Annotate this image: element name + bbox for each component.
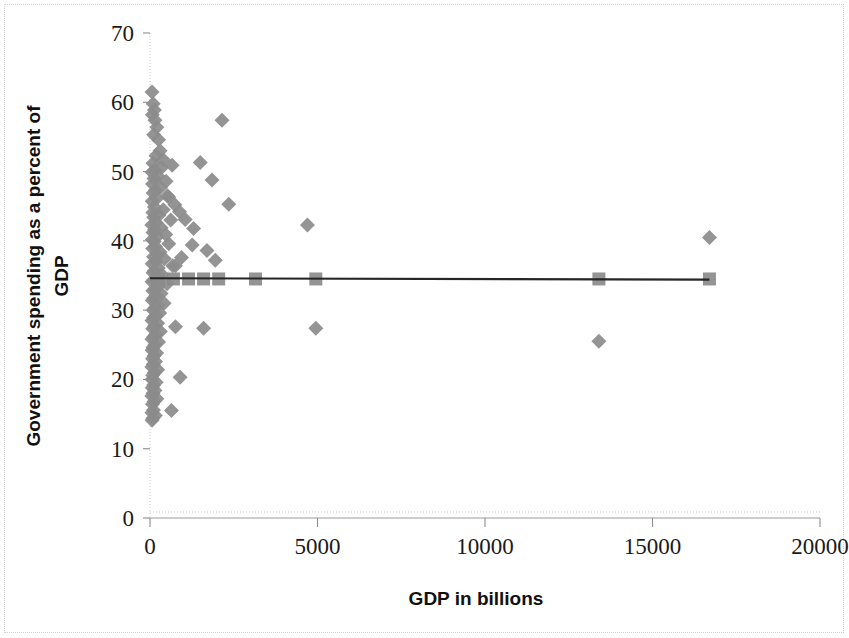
data-point-diamond <box>308 321 323 336</box>
y-axis-title-line-1: Government spending as a percent of <box>23 105 44 447</box>
data-point-diamond <box>185 238 200 253</box>
y-tick-label: 40 <box>111 229 134 254</box>
x-tick-label: 10000 <box>456 534 514 559</box>
y-tick-label: 30 <box>111 298 134 323</box>
y-axis-title-line-2: GDP <box>51 255 72 297</box>
y-tick-label: 60 <box>111 90 134 115</box>
y-tick-label: 0 <box>123 506 135 531</box>
data-point-diamond <box>173 370 188 385</box>
y-tick-label: 10 <box>111 437 134 462</box>
x-axis-title: GDP in billions <box>409 588 544 609</box>
x-tick-label: 15000 <box>624 534 682 559</box>
data-point-diamond <box>204 172 219 187</box>
data-point-diamond <box>145 84 160 99</box>
data-point-diamond <box>591 334 606 349</box>
series-diamond <box>144 84 717 427</box>
x-tick-label: 20000 <box>791 534 849 559</box>
data-point-diamond <box>221 197 236 212</box>
x-tick-label: 5000 <box>295 534 341 559</box>
y-tick-label: 50 <box>111 160 134 185</box>
data-point-diamond <box>300 217 315 232</box>
data-point-diamond <box>215 113 230 128</box>
data-point-diamond <box>193 155 208 170</box>
data-points-layer <box>144 84 717 427</box>
data-point-diamond <box>168 319 183 334</box>
scatter-plot: 010203040506070 05000100001500020000 GDP… <box>0 0 849 638</box>
trend-line <box>150 278 709 279</box>
y-tick-label: 20 <box>111 367 134 392</box>
chart-figure: 010203040506070 05000100001500020000 GDP… <box>0 0 849 638</box>
x-axis-tick-labels: 05000100001500020000 <box>144 534 849 559</box>
x-tick-label: 0 <box>144 534 156 559</box>
y-tick-label: 70 <box>111 21 134 46</box>
data-point-diamond <box>208 253 223 268</box>
data-point-diamond <box>199 243 214 258</box>
data-point-diamond <box>196 321 211 336</box>
x-axis-ticks <box>150 518 820 527</box>
data-point-diamond <box>702 230 717 245</box>
y-axis-tick-labels: 010203040506070 <box>111 21 134 531</box>
data-point-diamond <box>164 403 179 418</box>
